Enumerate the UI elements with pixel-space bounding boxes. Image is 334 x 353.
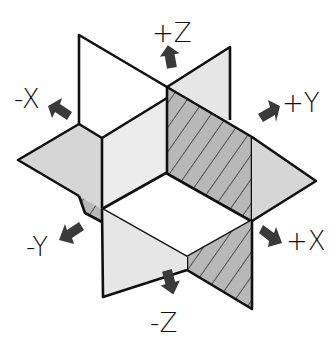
label-neg-y: -Y — [26, 232, 48, 262]
label-neg-z: -Z — [150, 308, 177, 338]
arrow-neg-x — [48, 98, 72, 120]
xy-plane-left — [18, 124, 102, 209]
arrow-pos-x — [259, 225, 282, 247]
label-neg-x: -X — [14, 84, 40, 114]
arrow-neg-y — [59, 222, 84, 244]
arrow-pos-y — [258, 100, 280, 122]
axis-planes-diagram: +Z -Z +Y -Y +X -X — [0, 0, 334, 353]
label-pos-y: +Y — [282, 88, 320, 118]
label-pos-x: +X — [286, 226, 326, 256]
label-pos-z: +Z — [152, 18, 192, 48]
xy-plane-right — [252, 137, 316, 221]
